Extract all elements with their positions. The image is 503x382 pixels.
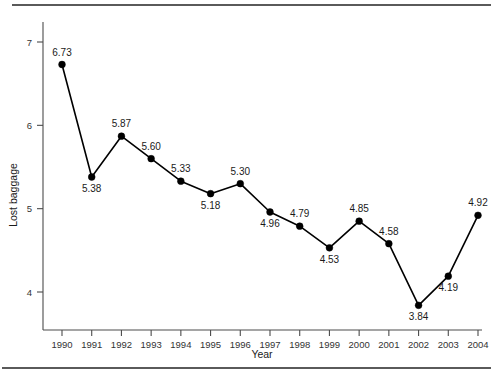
axis-group [43,22,482,330]
x-tick-group: 1990199119921993199419951996199719981999… [51,330,488,350]
x-tick-label: 1994 [170,339,191,350]
data-point-label: 4.92 [468,197,488,208]
data-point-marker [296,223,303,230]
data-point-label: 5.18 [201,200,221,211]
data-point-marker [177,178,184,185]
data-point-label: 5.87 [112,118,132,129]
data-point-label: 3.84 [409,311,429,322]
series-group [62,65,478,306]
data-point-marker [148,155,155,162]
data-point-label: 5.38 [82,183,102,194]
x-tick-label: 2003 [438,339,459,350]
data-point-marker [445,273,452,280]
figure-panel: 4567 19901991199219931994199519961997199… [0,0,503,382]
x-tick-label: 1996 [230,339,251,350]
x-axis-title: Year [251,348,273,360]
data-label-group: 6.735.385.875.605.335.185.304.964.794.53… [52,47,488,323]
data-point-marker [415,302,422,309]
data-point-marker [475,212,482,219]
y-axis-title: Lost baggage [7,163,19,227]
x-tick-label: 2004 [467,339,488,350]
data-point-label: 4.79 [290,208,310,219]
x-tick-label: 1992 [111,339,132,350]
data-point-label: 5.33 [171,163,191,174]
y-tick-label: 5 [27,203,32,214]
x-tick-label: 1991 [81,339,102,350]
data-point-marker [326,244,333,251]
x-tick-label: 1998 [289,339,310,350]
x-tick-label: 2002 [408,339,429,350]
figure-bottom-rule [2,367,491,369]
y-tick-label: 7 [27,37,32,48]
data-point-label: 5.30 [231,166,251,177]
data-point-label: 6.73 [52,47,72,58]
data-point-marker [356,218,363,225]
data-point-label: 4.85 [349,203,369,214]
x-tick-label: 2000 [349,339,370,350]
x-tick-label: 1999 [319,339,340,350]
data-point-label: 4.53 [320,254,340,265]
y-tick-label: 6 [27,120,32,131]
data-point-marker [88,174,95,181]
data-point-marker [118,133,125,140]
y-tick-group: 4567 [27,37,43,298]
data-line [62,65,478,306]
x-tick-label: 1993 [141,339,162,350]
data-point-label: 5.60 [141,141,161,152]
data-point-marker [59,61,66,68]
data-point-marker [207,190,214,197]
marker-group [59,61,482,309]
x-tick-label: 1990 [51,339,72,350]
y-tick-label: 4 [27,287,32,298]
data-point-marker [267,209,274,216]
x-tick-label: 2001 [378,339,399,350]
x-tick-label: 1995 [200,339,221,350]
data-point-marker [385,240,392,247]
line-chart: 4567 19901991199219931994199519961997199… [0,0,503,382]
data-point-label: 4.19 [439,282,459,293]
data-point-marker [237,180,244,187]
data-point-label: 4.58 [379,226,399,237]
data-point-label: 4.96 [260,218,280,229]
